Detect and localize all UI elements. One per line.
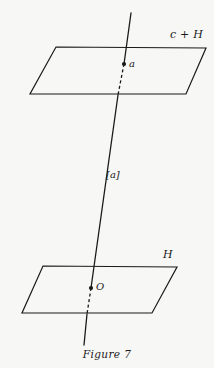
- label-coset-class: [a]: [106, 170, 120, 180]
- plane-top-coset: [30, 47, 206, 94]
- label-plane-bottom-subgroup: H: [163, 249, 173, 260]
- line-segment-above-top-plane: [124, 13, 131, 64]
- label-point-a: a: [129, 59, 135, 69]
- label-plane-top-coset: c + H: [170, 29, 203, 40]
- line-segment-hidden-top-plane: [118, 64, 124, 95]
- line-segment-hidden-bottom-plane: [87, 288, 91, 314]
- figure-caption: Figure 7: [0, 348, 214, 360]
- line-segment-below-bottom-plane: [84, 314, 87, 345]
- point-marker-a: [122, 62, 126, 66]
- label-point-origin: O: [96, 282, 104, 292]
- point-marker-origin: [89, 286, 93, 290]
- geometry-diagram: [0, 0, 214, 368]
- line-segment-between-planes: [91, 95, 118, 288]
- figure-container: c + H a [a] H O Figure 7: [0, 0, 214, 368]
